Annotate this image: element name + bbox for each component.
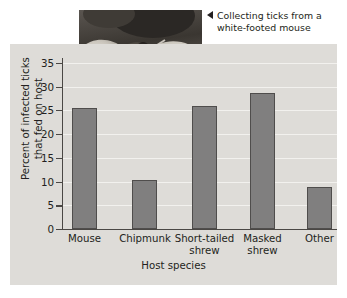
x-axis-line bbox=[62, 229, 337, 230]
x-label-masked-shrew-line-1: Masked bbox=[243, 233, 282, 244]
x-tick-label-masked-shrew: Masked shrew bbox=[229, 233, 296, 257]
y-tick-25 bbox=[56, 110, 62, 111]
bar-mouse bbox=[72, 108, 97, 229]
y-tick-20 bbox=[56, 134, 62, 135]
bar-masked-shrew bbox=[250, 93, 275, 229]
y-tick-5 bbox=[56, 205, 62, 206]
x-label-chipmunk-line-1: Chipmunk bbox=[119, 233, 171, 244]
x-tick-label-mouse: Mouse bbox=[55, 233, 115, 245]
y-tick-15 bbox=[56, 158, 62, 159]
figure-caption: Collecting ticks from a white-footed mou… bbox=[207, 10, 345, 35]
bar-short-tailed-shrew bbox=[192, 106, 217, 229]
chart-panel: 35 30 25 20 15 10 5 0 Mouse Chipmunk Sho… bbox=[10, 44, 337, 285]
caption-line-1: Collecting ticks from a bbox=[217, 10, 322, 21]
x-label-masked-shrew-line-2: shrew bbox=[247, 245, 277, 256]
y-axis-title-line-1: Percent of infected ticks bbox=[20, 57, 31, 180]
left-triangle-icon bbox=[207, 11, 213, 19]
x-tick-label-other: Other bbox=[292, 233, 347, 245]
y-axis-line bbox=[62, 58, 63, 230]
caption-line-2: white-footed mouse bbox=[217, 22, 345, 34]
y-tick-label-0: 0 bbox=[14, 223, 54, 235]
bar-chipmunk bbox=[132, 180, 157, 229]
x-label-short-tailed-shrew-line-2: shrew bbox=[189, 245, 219, 256]
bar-other bbox=[307, 187, 332, 229]
y-tick-30 bbox=[56, 87, 62, 88]
y-axis-title: Percent of infected ticks that fed on ho… bbox=[20, 34, 45, 204]
x-axis-title: Host species bbox=[10, 260, 337, 271]
plot-area: 35 30 25 20 15 10 5 0 Mouse Chipmunk Sho… bbox=[10, 44, 337, 285]
x-label-other-line-1: Other bbox=[305, 233, 334, 244]
x-label-short-tailed-shrew-line-1: Short-tailed bbox=[175, 233, 235, 244]
y-tick-10 bbox=[56, 182, 62, 183]
y-tick-35 bbox=[56, 63, 62, 64]
figure-bar-chart-ticks-by-host: Collecting ticks from a white-footed mou… bbox=[0, 0, 347, 298]
x-label-mouse-line-1: Mouse bbox=[68, 233, 101, 244]
y-tick-0 bbox=[56, 229, 62, 230]
y-axis-title-line-2: that fed on host bbox=[33, 34, 46, 204]
